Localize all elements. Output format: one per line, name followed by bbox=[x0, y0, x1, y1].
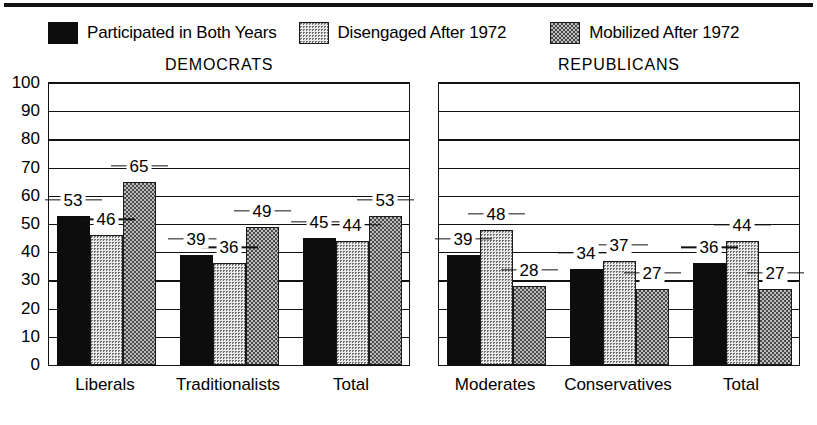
bar bbox=[759, 289, 792, 365]
bar bbox=[693, 263, 726, 365]
bar bbox=[369, 216, 402, 365]
bar-value-label: 53 bbox=[373, 190, 398, 209]
bar bbox=[90, 235, 123, 365]
gridline bbox=[49, 139, 409, 140]
y-axis-tick-label: 50 bbox=[21, 215, 40, 232]
bar-value-label: 45 bbox=[307, 213, 332, 232]
bar-value-label: 65 bbox=[127, 156, 152, 175]
bar bbox=[123, 182, 156, 365]
bar-value-label: 39 bbox=[451, 230, 476, 249]
top-rule-divider bbox=[4, 3, 813, 7]
gridline bbox=[439, 168, 799, 169]
y-axis-tick-label: 30 bbox=[21, 271, 40, 288]
panel-democrats: 534665393649454453 bbox=[48, 82, 410, 366]
y-axis-tick-label: 20 bbox=[21, 299, 40, 316]
bar-value-label: 36 bbox=[697, 238, 722, 257]
bar-value-label: 44 bbox=[730, 215, 755, 234]
bar-value-label: 46 bbox=[94, 210, 119, 229]
bar-value-label: 53 bbox=[61, 190, 86, 209]
bar bbox=[213, 263, 246, 365]
bar bbox=[180, 255, 213, 365]
bar-value-label: 39 bbox=[184, 230, 209, 249]
bar-value-label: 28 bbox=[517, 261, 542, 280]
plot-area-democrats: 534665393649454453 bbox=[49, 83, 409, 365]
legend-label: Disengaged After 1972 bbox=[338, 23, 507, 43]
legend-item: Disengaged After 1972 bbox=[299, 22, 507, 44]
chart-legend: Participated in Both YearsDisengaged Aft… bbox=[48, 18, 778, 48]
y-axis-tick-label: 100 bbox=[12, 74, 40, 91]
bar-value-label: 27 bbox=[763, 263, 788, 282]
bar-value-label: 37 bbox=[607, 235, 632, 254]
solid-black-swatch bbox=[48, 22, 78, 44]
x-axis-category-label: Traditionalists bbox=[176, 376, 280, 393]
bar bbox=[447, 255, 480, 365]
panel-republicans: 394828343727364427 bbox=[438, 82, 800, 366]
legend-item: Participated in Both Years bbox=[48, 22, 277, 44]
bar bbox=[480, 230, 513, 365]
bar-value-label: 44 bbox=[340, 215, 365, 234]
x-axis-category-label: Total bbox=[723, 376, 759, 393]
bar bbox=[726, 241, 759, 365]
y-axis-tick-label: 60 bbox=[21, 186, 40, 203]
gridline bbox=[439, 196, 799, 197]
y-axis-tick-label: 70 bbox=[21, 158, 40, 175]
plot-area-republicans: 394828343727364427 bbox=[439, 83, 799, 365]
panel-title-republicans: REPUBLICANS bbox=[558, 56, 680, 74]
y-axis-tick-label: 0 bbox=[31, 356, 40, 373]
bar-value-label: 36 bbox=[217, 238, 242, 257]
y-axis-tick-label: 40 bbox=[21, 243, 40, 260]
x-axis-category-label: Moderates bbox=[455, 376, 535, 393]
gridline bbox=[439, 139, 799, 140]
x-axis-category-label: Conservatives bbox=[564, 376, 672, 393]
light-stipple-swatch bbox=[299, 22, 329, 44]
gridline bbox=[49, 83, 409, 84]
x-axis-category-label: Liberals bbox=[75, 376, 135, 393]
gridline bbox=[439, 111, 799, 112]
legend-item: Mobilized After 1972 bbox=[550, 22, 739, 44]
y-axis-tick-label: 90 bbox=[21, 102, 40, 119]
y-axis-tick-label: 80 bbox=[21, 130, 40, 147]
bar bbox=[57, 216, 90, 365]
bar bbox=[603, 261, 636, 365]
panel-title-democrats: DEMOCRATS bbox=[165, 56, 273, 74]
chart-figure: Participated in Both YearsDisengaged Aft… bbox=[0, 0, 817, 425]
bar bbox=[303, 238, 336, 365]
legend-label: Participated in Both Years bbox=[87, 23, 277, 43]
bar bbox=[636, 289, 669, 365]
y-axis: 0102030405060708090100 bbox=[0, 74, 44, 364]
gridline bbox=[49, 196, 409, 197]
bar-value-label: 49 bbox=[250, 201, 275, 220]
checkerboard-swatch bbox=[550, 22, 580, 44]
x-axis-category-label: Total bbox=[333, 376, 369, 393]
legend-label: Mobilized After 1972 bbox=[589, 23, 739, 43]
bar-value-label: 34 bbox=[574, 244, 599, 263]
bar bbox=[336, 241, 369, 365]
bar-value-label: 27 bbox=[640, 263, 665, 282]
bar bbox=[513, 286, 546, 365]
gridline bbox=[439, 83, 799, 84]
bar bbox=[570, 269, 603, 365]
gridline bbox=[49, 168, 409, 169]
gridline bbox=[49, 111, 409, 112]
y-axis-tick-label: 10 bbox=[21, 327, 40, 344]
bar-value-label: 48 bbox=[484, 204, 509, 223]
